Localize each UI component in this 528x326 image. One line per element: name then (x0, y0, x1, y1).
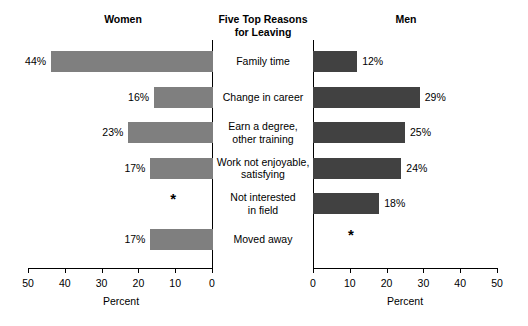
plot-area-men: 12%29%25%24%18%* (313, 40, 526, 265)
reason-label: Not interestedin field (213, 191, 313, 216)
bar-row-men: 18% (313, 187, 526, 223)
axis-tick (350, 268, 351, 273)
bar-row-women: 17% (0, 152, 213, 188)
bar-row-women: 44% (0, 45, 213, 81)
axis-tick (497, 268, 498, 273)
column-header-men-text: Men (396, 13, 417, 25)
column-header-women: Women (63, 13, 183, 26)
bar-men[interactable] (313, 87, 420, 108)
chart-title: Five Top Reasons for Leaving (203, 13, 323, 39)
bar-value-men: 18% (384, 196, 405, 210)
bar-women[interactable] (128, 122, 213, 143)
axis-tick (138, 268, 139, 273)
plot-area-women: 44%16%23%17%*17% (0, 40, 213, 265)
bar-men[interactable] (313, 193, 379, 214)
chart-title-line2: for Leaving (203, 26, 323, 39)
bar-value-men: 24% (406, 161, 427, 175)
axis-tick-label: 0 (298, 277, 328, 290)
axis-tick (423, 268, 424, 273)
bar-women[interactable] (150, 158, 213, 179)
axis-tick (313, 268, 314, 273)
bar-value-women: 16% (128, 90, 149, 104)
reason-label: Moved away (213, 233, 313, 246)
axis-tick-label: 0 (197, 277, 227, 290)
bar-row-men: 24% (313, 152, 526, 188)
bar-value-men: 25% (410, 125, 431, 139)
reason-label-line2: other training (213, 133, 313, 146)
bar-row-men: 29% (313, 81, 526, 117)
reason-label-line2: in field (213, 204, 313, 217)
x-axis-women (29, 268, 213, 269)
bar-row-women: * (0, 187, 213, 223)
bar-row-women: 17% (0, 223, 213, 259)
bar-value-men: 29% (425, 90, 446, 104)
bar-value-women: 17% (124, 161, 145, 175)
axis-tick (28, 268, 29, 273)
reason-label: Family time (213, 55, 313, 68)
axis-tick-label: 50 (482, 277, 512, 290)
bar-value-women: 17% (124, 232, 145, 246)
bar-row-women: 16% (0, 81, 213, 117)
axis-tick-label: 30 (408, 277, 438, 290)
reason-label-line1: Earn a degree, (213, 120, 313, 133)
bar-men[interactable] (313, 122, 405, 143)
bar-row-men: * (313, 223, 526, 259)
axis-tick (460, 268, 461, 273)
reason-label: Work not enjoyable,satisfying (213, 156, 313, 181)
column-header-men: Men (346, 13, 466, 26)
bar-value-women: 44% (25, 54, 46, 68)
chart-title-line1: Five Top Reasons (203, 13, 323, 26)
bar-value-men: 12% (362, 54, 383, 68)
reason-label: Change in career (213, 91, 313, 104)
x-axis-men (313, 268, 497, 269)
reason-label: Earn a degree,other training (213, 120, 313, 145)
axis-tick-label: 40 (445, 277, 475, 290)
bar-women[interactable] (154, 87, 213, 108)
bar-men[interactable] (313, 158, 401, 179)
column-header-women-text: Women (104, 13, 142, 25)
axis-tick (175, 268, 176, 273)
axis-tick (387, 268, 388, 273)
axis-tick-label: 50 (13, 277, 43, 290)
x-axis-title-men: Percent (335, 295, 475, 308)
bar-men[interactable] (313, 51, 357, 72)
axis-tick-label: 10 (160, 277, 190, 290)
axis-tick-label: 40 (50, 277, 80, 290)
axis-tick (65, 268, 66, 273)
bar-row-men: 12% (313, 45, 526, 81)
axis-tick (102, 268, 103, 273)
suppressed-marker-men: * (348, 228, 354, 242)
bar-value-women: 23% (102, 125, 123, 139)
axis-tick-label: 20 (372, 277, 402, 290)
reason-label-line1: Work not enjoyable, (213, 156, 313, 169)
reason-label-line2: satisfying (213, 168, 313, 181)
reason-label-line1: Change in career (213, 91, 313, 104)
chart-container: Women Five Top Reasons for Leaving Men 4… (0, 0, 528, 326)
bar-women[interactable] (150, 229, 213, 250)
bar-row-women: 23% (0, 116, 213, 152)
reason-label-column: Family timeChange in careerEarn a degree… (213, 40, 313, 265)
bar-row-men: 25% (313, 116, 526, 152)
bar-women[interactable] (51, 51, 213, 72)
x-axis-title-women: Percent (51, 295, 191, 308)
reason-label-line1: Moved away (213, 233, 313, 246)
axis-tick (212, 268, 213, 273)
reason-label-line1: Family time (213, 55, 313, 68)
axis-tick-label: 30 (87, 277, 117, 290)
axis-tick-label: 20 (123, 277, 153, 290)
suppressed-marker-women: * (170, 192, 176, 206)
reason-label-line1: Not interested (213, 191, 313, 204)
axis-tick-label: 10 (335, 277, 365, 290)
